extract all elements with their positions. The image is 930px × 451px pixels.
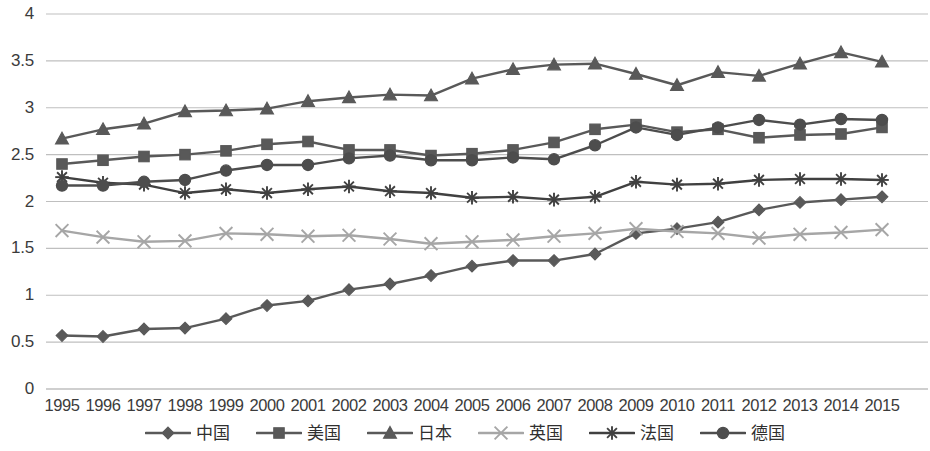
circle-marker-icon — [384, 150, 395, 161]
square-marker-icon — [303, 136, 313, 146]
asterisk-marker-icon — [383, 184, 397, 198]
diamond-marker-icon — [548, 255, 560, 267]
triangle-marker-icon — [367, 424, 413, 442]
circle-marker-icon — [425, 155, 436, 166]
asterisk-marker-icon — [793, 172, 807, 186]
circle-marker-icon — [302, 159, 313, 170]
x-axis-tick-label: 2004 — [409, 397, 453, 414]
x-axis-tick-label: 2002 — [327, 397, 371, 414]
asterisk-marker-icon — [629, 175, 643, 189]
legend-item-4[interactable]: 英国 — [478, 424, 563, 442]
square-marker-icon — [590, 124, 600, 134]
asterisk-marker-icon — [670, 178, 684, 192]
square-marker-icon — [256, 424, 302, 442]
asterisk-marker-icon — [506, 190, 520, 204]
circle-marker-icon — [835, 113, 846, 124]
legend-item-3[interactable]: 日本 — [367, 424, 452, 442]
square-marker-icon — [754, 133, 764, 143]
x-axis-tick-label: 2013 — [778, 397, 822, 414]
x-axis-tick-label: 2000 — [245, 397, 289, 414]
circle-marker-icon — [589, 140, 600, 151]
x-axis-tick-label: 2005 — [450, 397, 494, 414]
diamond-marker-icon — [56, 330, 68, 342]
circle-marker-icon — [179, 174, 190, 185]
square-marker-icon — [139, 151, 149, 161]
asterisk-marker-icon — [260, 186, 274, 200]
legend-item-5[interactable]: 法国 — [589, 424, 674, 442]
asterisk-marker-icon — [588, 190, 602, 204]
diamond-marker-icon — [220, 313, 232, 325]
diamond-marker-icon — [138, 323, 150, 335]
diamond-marker-icon — [589, 248, 601, 260]
y-axis-tick-label: 1.5 — [0, 239, 34, 256]
asterisk-marker-icon — [424, 186, 438, 200]
x-axis-tick-label: 2006 — [491, 397, 535, 414]
diamond-marker-icon — [261, 300, 273, 312]
asterisk-marker-icon — [465, 191, 479, 205]
diamond-marker-icon — [835, 194, 847, 206]
circle-marker-icon — [794, 119, 805, 130]
asterisk-marker-icon — [547, 193, 561, 207]
legend-label: 英国 — [529, 425, 563, 442]
circle-marker-icon — [507, 152, 518, 163]
legend-label: 中国 — [196, 425, 230, 442]
diamond-marker-icon — [753, 204, 765, 216]
diamond-marker-icon — [466, 260, 478, 272]
asterisk-marker-icon — [752, 173, 766, 187]
x-axis-tick-label: 1998 — [163, 397, 207, 414]
circle-marker-icon — [466, 155, 477, 166]
x-axis-tick-label: 2014 — [819, 397, 863, 414]
x-axis-tick-label: 2008 — [573, 397, 617, 414]
legend-label: 法国 — [640, 425, 674, 442]
legend-label: 美国 — [307, 425, 341, 442]
plot-area — [0, 0, 930, 451]
legend-item-6[interactable]: 德国 — [700, 424, 785, 442]
legend-item-2[interactable]: 美国 — [256, 424, 341, 442]
diamond-marker-icon — [343, 284, 355, 296]
square-marker-icon — [549, 137, 559, 147]
asterisk-marker-icon — [219, 183, 233, 197]
legend-label: 日本 — [418, 425, 452, 442]
diamond-marker-icon — [712, 216, 724, 228]
y-axis-tick-label: 0.5 — [0, 333, 34, 350]
y-axis-tick-label: 3 — [0, 99, 34, 116]
x-axis-tick-label: 2012 — [737, 397, 781, 414]
circle-marker-icon — [261, 159, 272, 170]
x-axis-tick-label: 2003 — [368, 397, 412, 414]
line-chart: 00.511.522.533.54 1995199619971998199920… — [0, 0, 930, 451]
x-axis-tick-label: 2011 — [696, 397, 740, 414]
square-marker-icon — [98, 155, 108, 165]
diamond-marker-icon — [162, 427, 174, 439]
diamond-marker-icon — [425, 270, 437, 282]
diamond-marker-icon — [507, 255, 519, 267]
x-axis-tick-label: 2009 — [614, 397, 658, 414]
legend-item-1[interactable]: 中国 — [145, 424, 230, 442]
square-marker-icon — [57, 159, 67, 169]
circle-marker-icon — [97, 180, 108, 191]
circle-marker-icon — [343, 153, 354, 164]
square-marker-icon — [274, 428, 284, 438]
series-4 — [56, 222, 889, 250]
y-axis-tick-label: 2.5 — [0, 146, 34, 163]
circle-marker-icon — [671, 129, 682, 140]
circle-marker-icon — [753, 114, 764, 125]
circle-marker-icon — [717, 427, 728, 438]
x-axis-tick-label: 1997 — [122, 397, 166, 414]
asterisk-marker-icon — [605, 426, 619, 440]
diamond-marker-icon — [384, 278, 396, 290]
x-axis-tick-label: 2007 — [532, 397, 576, 414]
asterisk-marker-icon — [301, 183, 315, 197]
y-axis-tick-label: 3.5 — [0, 52, 34, 69]
square-marker-icon — [221, 146, 231, 156]
asterisk-marker-icon — [178, 186, 192, 200]
diamond-marker-icon — [97, 331, 109, 343]
x-axis-tick-label: 2010 — [655, 397, 699, 414]
x-axis-tick-label: 1995 — [40, 397, 84, 414]
asterisk-marker-icon — [875, 173, 889, 187]
y-axis-tick-label: 1 — [0, 286, 34, 303]
x-axis-tick-label: 2001 — [286, 397, 330, 414]
circle-marker-icon — [548, 154, 559, 165]
diamond-marker-icon — [145, 424, 191, 442]
circle-marker-icon — [630, 122, 641, 133]
circle-marker-icon — [220, 165, 231, 176]
